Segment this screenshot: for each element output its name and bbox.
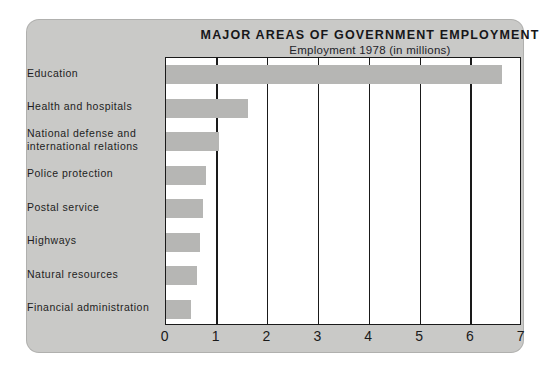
- category-label: Postal service: [27, 201, 162, 214]
- bar-slot: [166, 125, 219, 159]
- bar-slot: [166, 192, 203, 226]
- x-tick-label: 5: [407, 328, 431, 344]
- x-tick-label: 0: [153, 328, 177, 344]
- category-label: Highways: [27, 234, 162, 247]
- x-tick-label: 1: [204, 328, 228, 344]
- category-label-line: Postal service: [27, 201, 162, 214]
- chart-title: MAJOR AREAS OF GOVERNMENT EMPLOYMENT: [192, 28, 548, 42]
- bar: [166, 199, 203, 218]
- bar-series: [166, 58, 520, 324]
- category-label-line: Highways: [27, 234, 162, 247]
- category-label-line: National defense and: [27, 127, 162, 140]
- category-label-line: Financial administration: [27, 301, 162, 314]
- bar: [166, 132, 219, 151]
- category-label: Health and hospitals: [27, 100, 162, 113]
- x-tick-label: 7: [509, 328, 533, 344]
- bar: [166, 266, 197, 285]
- bar: [166, 65, 502, 84]
- category-label-line: Education: [27, 67, 162, 80]
- bar-slot: [166, 293, 191, 327]
- bar: [166, 300, 191, 319]
- category-label: Police protection: [27, 167, 162, 180]
- chart-panel: MAJOR AREAS OF GOVERNMENT EMPLOYMENT Emp…: [27, 20, 523, 352]
- bar-slot: [166, 92, 248, 126]
- bar-slot: [166, 226, 200, 260]
- bar-slot: [166, 58, 502, 92]
- category-label-line: Natural resources: [27, 268, 162, 281]
- category-label-line: international relations: [27, 140, 162, 153]
- category-label: Financial administration: [27, 301, 162, 314]
- category-label: National defense andinternational relati…: [27, 127, 162, 152]
- bar: [166, 166, 206, 185]
- x-tick-label: 3: [306, 328, 330, 344]
- chart-subtitle: Employment 1978 (in millions): [192, 44, 548, 56]
- category-label: Natural resources: [27, 268, 162, 281]
- category-label-line: Police protection: [27, 167, 162, 180]
- bar: [166, 99, 248, 118]
- bar-slot: [166, 159, 206, 193]
- plot-area: [165, 57, 521, 325]
- category-label-line: Health and hospitals: [27, 100, 162, 113]
- x-tick-label: 4: [356, 328, 380, 344]
- bar-slot: [166, 259, 197, 293]
- x-tick-label: 6: [458, 328, 482, 344]
- x-tick-label: 2: [255, 328, 279, 344]
- category-label: Education: [27, 67, 162, 80]
- bar: [166, 233, 200, 252]
